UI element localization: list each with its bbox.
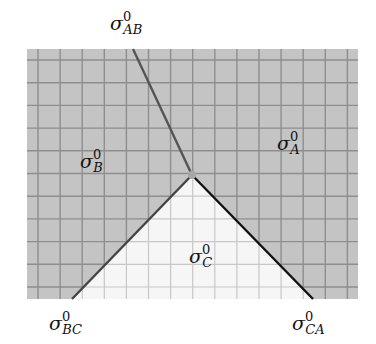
svg-text:σ0BC: σ0BC (49, 309, 82, 337)
svg-text:σ0AB: σ0AB (110, 9, 142, 37)
label-sigma-ca: σ0CA (292, 309, 325, 337)
svg-text:σ0A: σ0A (277, 129, 300, 157)
triple-point (188, 171, 196, 179)
svg-text:σ0CA: σ0CA (292, 309, 325, 337)
label-sigma-bc: σ0BC (49, 309, 82, 337)
svg-text:σ0B: σ0B (80, 147, 103, 175)
svg-text:σ0C: σ0C (189, 242, 212, 270)
phase-diagram: σ0AB σ0B σ0A σ0C σ0BC σ0CA (0, 0, 376, 344)
label-sigma-a: σ0A (277, 129, 300, 157)
label-sigma-c: σ0C (189, 242, 212, 270)
label-sigma-ab: σ0AB (110, 9, 142, 37)
label-sigma-b: σ0B (80, 147, 103, 175)
